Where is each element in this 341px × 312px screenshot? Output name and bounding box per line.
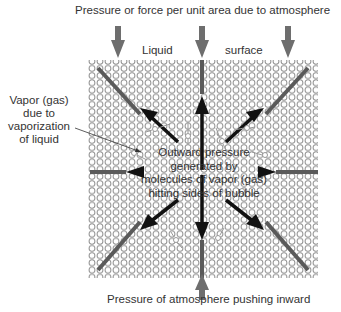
- inward-pressure-label: Pressure of atmosphere pushing inward: [107, 293, 310, 306]
- atmosphere-pressure-label: Pressure or force per unit area due to a…: [75, 4, 330, 17]
- surface-label: surface: [225, 44, 263, 57]
- outward-pressure-label: Outward pressure generated by molecules …: [130, 146, 278, 200]
- liquid-label: Liquid: [142, 44, 173, 57]
- vapor-label: Vapor (gas) due to vaporization of liqui…: [4, 94, 74, 146]
- atmosphere-arrows-down: [111, 26, 295, 58]
